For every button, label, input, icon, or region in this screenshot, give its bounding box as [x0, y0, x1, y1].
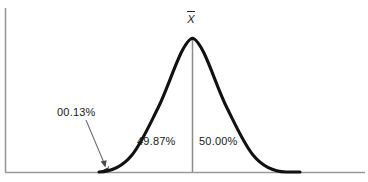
right-area-percent-label: 50.00% — [199, 135, 238, 147]
mean-symbol-glyph: X — [187, 14, 195, 25]
tail-annotation-arrowhead-icon — [101, 160, 107, 167]
mean-symbol-label: X — [187, 11, 195, 25]
bell-curve-path — [99, 38, 300, 172]
tail-annotation-arrow-line — [86, 120, 105, 164]
left-area-percent-label: 49.87% — [137, 135, 176, 147]
normal-curve-figure: 00.13% 49.87% 50.00% X — [0, 0, 368, 182]
tail-percent-label: 00.13% — [57, 106, 96, 118]
bell-curve-graphic — [0, 0, 368, 182]
